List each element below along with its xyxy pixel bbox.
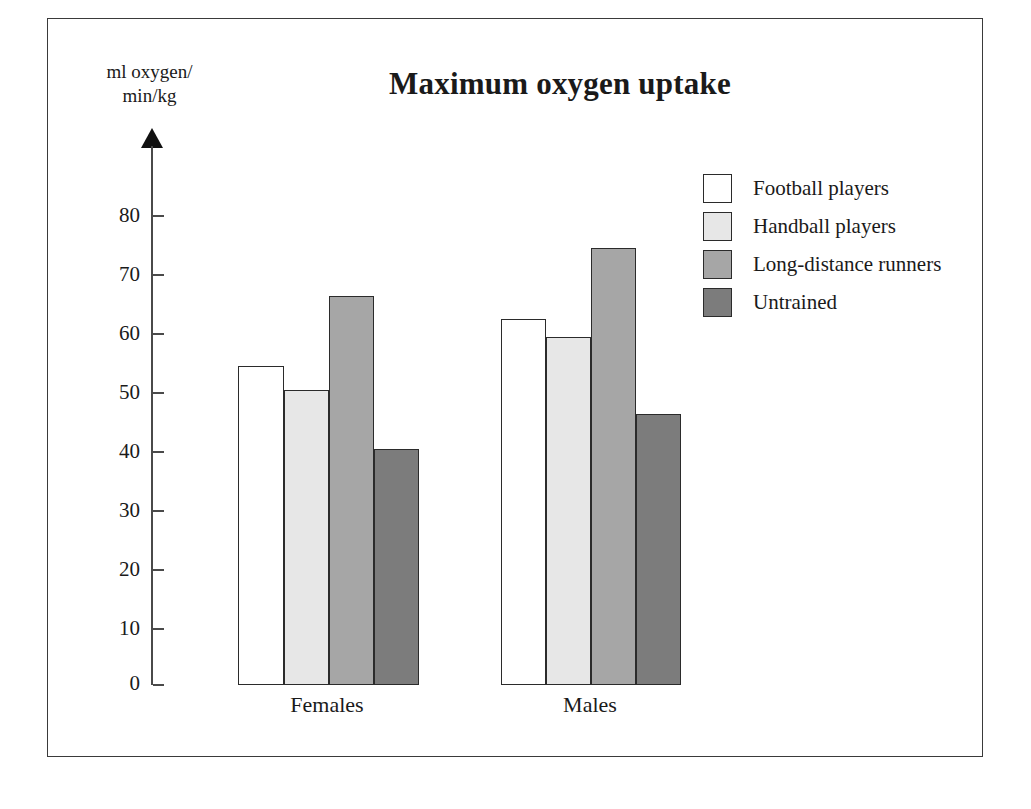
- bar-females-long-distance-runners: [329, 296, 374, 685]
- legend-item-football-players: Football players: [703, 172, 983, 210]
- legend-item-untrained: Untrained: [703, 286, 983, 324]
- figure: Maximum oxygen uptake ml oxygen/ min/kg …: [0, 0, 1031, 809]
- bar-males-handball-players: [546, 337, 591, 685]
- legend-label-football-players: Football players: [753, 175, 889, 201]
- bar-males-untrained: [636, 414, 681, 685]
- legend-swatch-untrained-icon: [703, 288, 732, 317]
- legend: Football players Handball players Long-d…: [703, 172, 983, 324]
- legend-swatch-long-distance-icon: [703, 250, 732, 279]
- legend-swatch-football-icon: [703, 174, 732, 203]
- legend-label-long-distance-runners: Long-distance runners: [753, 251, 941, 277]
- legend-swatch-handball-icon: [703, 212, 732, 241]
- legend-label-untrained: Untrained: [753, 289, 837, 315]
- bar-females-football-players: [238, 366, 284, 685]
- x-axis-label-males: Males: [490, 692, 690, 718]
- bar-females-untrained: [374, 449, 419, 685]
- legend-item-long-distance-runners: Long-distance runners: [703, 248, 983, 286]
- legend-item-handball-players: Handball players: [703, 210, 983, 248]
- plot-area: Females Males: [0, 0, 1031, 809]
- bar-males-long-distance-runners: [591, 248, 636, 685]
- bar-males-football-players: [501, 319, 546, 685]
- legend-label-handball-players: Handball players: [753, 213, 896, 239]
- bar-females-handball-players: [284, 390, 329, 685]
- x-axis-label-females: Females: [227, 692, 427, 718]
